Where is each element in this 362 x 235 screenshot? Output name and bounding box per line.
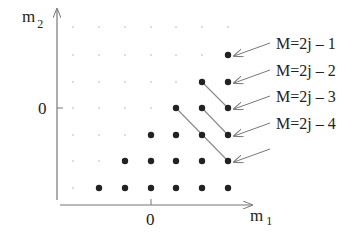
filled-grid-point <box>225 132 231 138</box>
filled-grid-point <box>173 185 179 191</box>
empty-grid-point <box>124 107 126 109</box>
filled-grid-point <box>148 132 154 138</box>
y-zero-label: 0 <box>38 99 47 118</box>
empty-grid-point <box>124 54 126 56</box>
empty-grid-point <box>175 81 177 83</box>
constant-m-line <box>202 108 228 135</box>
empty-grid-point <box>72 107 74 109</box>
filled-grid-point <box>199 158 205 164</box>
x-axis-label: m1 <box>250 206 272 228</box>
empty-grid-point <box>175 54 177 56</box>
empty-grid-point <box>98 107 100 109</box>
filled-grid-point <box>122 185 128 191</box>
filled-grid-point <box>199 105 205 111</box>
filled-grid-point <box>173 132 179 138</box>
filled-grid-point <box>199 79 205 85</box>
empty-grid-point <box>72 160 74 162</box>
empty-grid-point <box>72 134 74 136</box>
diagonal-lines <box>176 82 228 161</box>
empty-grid-point <box>124 81 126 83</box>
empty-grid-point <box>72 26 74 28</box>
empty-grid-point <box>98 81 100 83</box>
empty-grid-point <box>201 26 203 28</box>
empty-grid-point <box>150 26 152 28</box>
empty-grid-point <box>98 160 100 162</box>
m-value-label: M=2j – 1 <box>276 35 336 53</box>
empty-grid-point <box>150 81 152 83</box>
empty-grid-point <box>72 54 74 56</box>
x-axis: m1 0 <box>60 199 272 229</box>
grid-dots <box>72 26 229 189</box>
filled-grid-point <box>225 52 231 58</box>
m-value-label: M=2j – 3 <box>276 88 336 106</box>
filled-grid-point <box>199 185 205 191</box>
empty-grid-point <box>98 54 100 56</box>
filled-points <box>96 52 231 191</box>
filled-grid-point <box>225 79 231 85</box>
label-arrow <box>234 43 270 56</box>
filled-grid-point <box>173 105 179 111</box>
label-arrow <box>234 123 270 136</box>
empty-grid-point <box>72 81 74 83</box>
empty-grid-point <box>175 26 177 28</box>
filled-grid-point <box>173 158 179 164</box>
filled-grid-point <box>225 158 231 164</box>
y-axis: m2 0 <box>22 7 63 200</box>
filled-grid-point <box>96 185 102 191</box>
empty-grid-point <box>98 134 100 136</box>
filled-grid-point <box>225 105 231 111</box>
filled-grid-point <box>148 185 154 191</box>
m-value-label: M=2j – 2 <box>276 62 336 80</box>
y-axis-label: m2 <box>22 7 43 31</box>
empty-grid-point <box>227 26 229 28</box>
empty-grid-point <box>150 107 152 109</box>
constant-m-line <box>202 82 228 108</box>
label-arrow <box>234 96 270 109</box>
m-value-labels: M=2j – 1M=2j – 2M=2j – 3M=2j – 4 <box>234 35 336 162</box>
filled-grid-point <box>225 185 231 191</box>
empty-grid-point <box>72 187 74 189</box>
empty-grid-point <box>124 134 126 136</box>
x-zero-label: 0 <box>146 210 155 229</box>
filled-grid-point <box>122 158 128 164</box>
m-value-label: M=2j – 4 <box>276 115 336 133</box>
filled-grid-point <box>199 132 205 138</box>
angular-momentum-diagram: m2 0 m1 0 M=2j – 1M=2j – 2M=2j – 3M=2j –… <box>0 0 362 235</box>
empty-grid-point <box>201 54 203 56</box>
empty-grid-point <box>124 26 126 28</box>
label-arrow <box>234 70 270 83</box>
empty-grid-point <box>150 54 152 56</box>
empty-grid-point <box>98 26 100 28</box>
label-arrow <box>234 149 270 162</box>
filled-grid-point <box>148 158 154 164</box>
